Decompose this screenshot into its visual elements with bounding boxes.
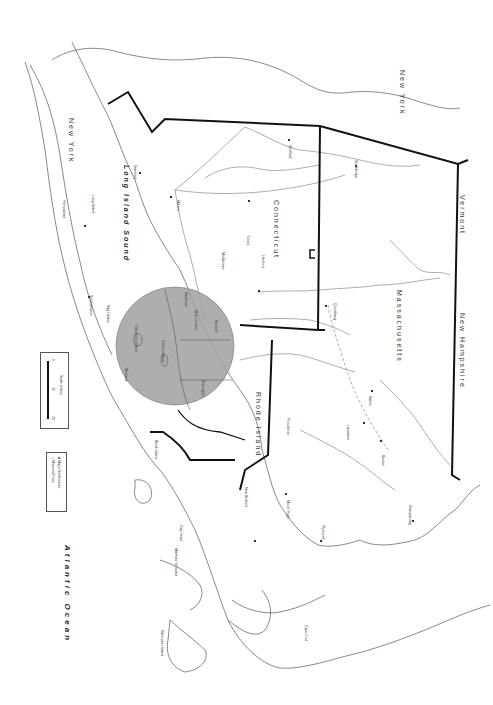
place-nantucket-island: Nantucket Island xyxy=(160,630,164,656)
place-providence: Providence xyxy=(286,418,290,436)
map-canvas xyxy=(0,0,493,705)
water-label-atlantic-ocean: Atlantic Ocean xyxy=(63,545,72,643)
place-mount-hope: Mount Hope xyxy=(286,500,290,519)
place-gay-head: Gay Head xyxy=(179,525,183,541)
key-item-missions: + Missions/Forts xyxy=(51,457,55,483)
place-montauk: Montauk xyxy=(124,368,128,381)
state-label-massachusetts: Massachusetts xyxy=(396,290,403,363)
place-long-island: Long Island xyxy=(91,195,95,213)
place-hempstead: Hempstead xyxy=(62,200,66,218)
place-new-london: New London xyxy=(194,310,198,330)
scale-tick-0: 0 xyxy=(51,359,55,361)
place-new-bedford: New Bedford xyxy=(244,487,248,507)
settlement-symbol-icon: ■ xyxy=(57,457,61,459)
place-lancaster: Lancaster xyxy=(346,425,350,440)
key-legend: ■ Major Settlements + Missions/Forts xyxy=(46,452,67,512)
place-salem: Wampanoag xyxy=(408,505,412,525)
state-label-new-hampshire: New Hampshire xyxy=(459,313,466,389)
scale-title: Scale (miles) xyxy=(59,375,63,395)
place-greenwich: Stamford xyxy=(133,165,137,179)
place-sheffield: Sheffield xyxy=(288,145,292,159)
place-marlborough: Salem xyxy=(368,396,372,406)
scale-tick-20: 20 xyxy=(51,416,55,420)
place-block-island: Block Island xyxy=(154,440,158,459)
place-cape-cod: Cape Cod xyxy=(304,625,308,641)
key-item-settlements: ■ Major Settlements xyxy=(57,457,61,488)
state-label-new-york-upstate: New York xyxy=(399,70,406,116)
route-dashed xyxy=(328,305,388,450)
coastlines xyxy=(25,42,490,672)
place-gardiners-island: Gardiner's Island xyxy=(134,325,138,351)
place-stonington: Stonington xyxy=(201,380,205,397)
state-label-vermont: Vermont xyxy=(459,195,466,235)
scale-bar xyxy=(47,361,49,419)
scale-legend: Scale (miles) 0 10 20 xyxy=(40,352,69,429)
place-norwich: Norwich xyxy=(214,320,218,333)
place-fairfield: Milford xyxy=(176,200,180,211)
state-label-connecticut: Connecticut xyxy=(273,200,280,259)
place-boston: Boston xyxy=(381,455,385,466)
place-hartford: Hartford xyxy=(261,255,265,268)
place-fishers-island: Fishers Island xyxy=(161,340,165,362)
place-saybrook: Saybrook xyxy=(184,292,188,307)
place-quinebaug: Quinebaug xyxy=(333,303,337,320)
place-marthas-vineyard: Martha's Vineyard xyxy=(174,548,178,576)
place-plymouth: Plymouth xyxy=(321,525,325,540)
place-southampton: Southampton xyxy=(89,295,93,316)
place-tunxis: Tunxis xyxy=(246,235,250,245)
place-stockbridge: Stockbridge xyxy=(354,160,358,178)
state-label-rhode-island: Rhode Island xyxy=(255,392,262,457)
mission-symbol-icon: + xyxy=(51,457,55,459)
water-label-long-island-sound: Long Island Sound xyxy=(123,165,130,262)
place-sag-harbor: Sag Harbor xyxy=(106,305,110,323)
scale-tick-10: 10 xyxy=(51,387,55,391)
state-label-new-york-li: New York xyxy=(68,118,75,164)
place-middletown: Middletown xyxy=(221,252,225,270)
